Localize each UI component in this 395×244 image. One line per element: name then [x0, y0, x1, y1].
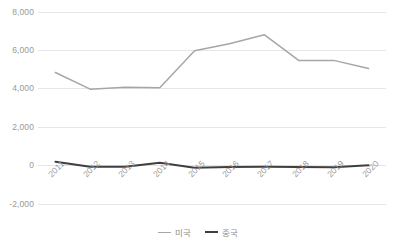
legend-item-2[interactable]: 중국	[205, 226, 238, 238]
series-line-2	[55, 162, 368, 168]
legend-line-swatch-icon	[158, 232, 171, 233]
legend-line-swatch-icon	[205, 231, 218, 233]
series-line-1	[55, 35, 368, 90]
y-axis-tick-label: 6,000	[0, 45, 34, 55]
legend-item-1[interactable]: 미국	[158, 226, 191, 238]
line-chart: 8,0006,0004,0002,0000-2,000 201120122013…	[0, 0, 395, 244]
y-axis-tick-label: 4,000	[0, 83, 34, 93]
series-lines	[55, 35, 368, 168]
chart-legend: 미국중국	[0, 226, 395, 238]
y-axis-tick-label: -2,000	[0, 199, 34, 209]
y-axis-tick-label: 0	[0, 160, 34, 170]
legend-item-label: 중국	[222, 226, 238, 238]
y-axis-tick-label: 2,000	[0, 122, 34, 132]
plot-area	[0, 0, 395, 244]
y-axis-tick-label: 8,000	[0, 7, 34, 17]
legend-item-label: 미국	[175, 226, 191, 238]
